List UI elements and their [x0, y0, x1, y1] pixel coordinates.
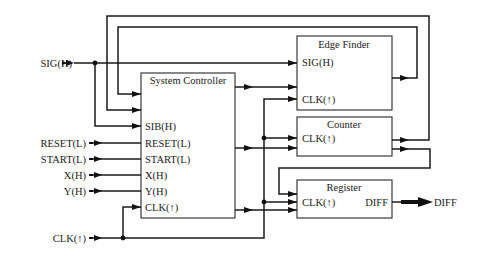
- ef-port-sig: SIG(H): [302, 57, 334, 69]
- junction-dot: [262, 136, 267, 141]
- arrow-tail-icon: [89, 190, 93, 192]
- arrow-icon: [400, 75, 409, 81]
- sc-port-x: X(H): [145, 170, 168, 182]
- arrow-icon: [244, 84, 253, 90]
- register-block: Register CLK(↑) DIFF: [297, 180, 392, 218]
- diff-output-arrow-icon: [418, 197, 433, 207]
- block-diagram: System Controller SIB(H) RESET(L) START(…: [0, 0, 481, 260]
- sc-port-start: START(L): [145, 154, 191, 166]
- arrow-icon: [288, 60, 297, 66]
- input-label-start: START(L): [41, 154, 87, 166]
- edge-finder-block: Edge Finder SIG(H) CLK(↑): [297, 36, 392, 110]
- arrow-icon: [400, 146, 409, 152]
- sc-port-reset: RESET(L): [145, 138, 191, 150]
- junction-dot: [262, 200, 267, 205]
- input-label-x: X(H): [64, 170, 87, 182]
- wire-clk-to-sc: [123, 207, 141, 238]
- arrow-icon: [288, 96, 297, 102]
- register-title: Register: [327, 182, 362, 193]
- arrow-icon: [132, 107, 141, 113]
- junction-dot: [121, 236, 126, 241]
- arrow-tail-icon: [89, 158, 93, 160]
- arrow-icon: [288, 207, 297, 213]
- arrow-icon: [94, 235, 102, 241]
- external-input-labels: SIG(H) RESET(L) START(L) X(H) Y(H) CLK(↑…: [41, 58, 87, 245]
- counter-title: Counter: [327, 119, 361, 130]
- sc-port-y: Y(H): [145, 186, 168, 198]
- register-port-clk: CLK(↑): [302, 197, 336, 209]
- arrow-icon: [288, 199, 297, 205]
- edge-finder-title: Edge Finder: [318, 39, 370, 50]
- sc-port-clk: CLK(↑): [145, 202, 179, 214]
- junction-dot: [93, 61, 98, 66]
- arrow-icon: [132, 91, 141, 97]
- arrow-tail-icon: [89, 237, 93, 239]
- arrow-icon: [288, 191, 297, 197]
- arrow-icon: [288, 135, 297, 141]
- input-label-reset: RESET(L): [41, 138, 87, 150]
- counter-block: Counter CLK(↑): [297, 117, 392, 156]
- arrow-icon: [94, 140, 102, 146]
- sc-port-sib: SIB(H): [145, 121, 176, 133]
- arrow-icon: [94, 188, 102, 194]
- arrow-icon: [288, 84, 297, 90]
- arrow-icon: [94, 172, 102, 178]
- register-port-diff: DIFF: [365, 197, 388, 208]
- ef-port-clk: CLK(↑): [302, 94, 336, 106]
- arrow-icon: [132, 123, 141, 129]
- input-label-clk: CLK(↑): [53, 233, 87, 245]
- arrow-icon: [244, 145, 253, 151]
- arrow-icon: [244, 207, 253, 213]
- arrow-icon: [288, 145, 297, 151]
- output-label-diff: DIFF: [434, 197, 457, 208]
- arrow-tail-icon: [89, 142, 93, 144]
- system-controller-title: System Controller: [150, 75, 227, 86]
- input-label-y: Y(H): [64, 186, 87, 198]
- arrow-icon: [132, 204, 141, 210]
- arrow-icon: [94, 156, 102, 162]
- system-controller-block: System Controller SIB(H) RESET(L) START(…: [141, 73, 235, 218]
- arrow-icon: [400, 137, 409, 143]
- counter-port-clk: CLK(↑): [302, 133, 336, 145]
- arrow-tail-icon: [89, 174, 93, 176]
